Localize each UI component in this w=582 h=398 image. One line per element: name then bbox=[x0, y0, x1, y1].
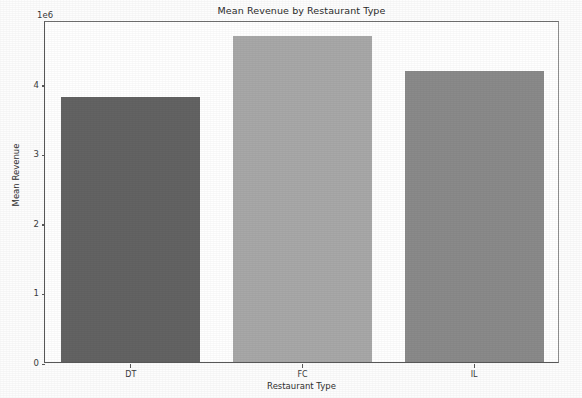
y-tick-label: 0 bbox=[34, 358, 39, 368]
y-tick-label: 1 bbox=[34, 288, 39, 298]
y-tick-mark bbox=[42, 224, 46, 225]
y-tick-label: 2 bbox=[34, 219, 39, 229]
y-tick-mark bbox=[42, 85, 46, 86]
x-tick-label: IL bbox=[434, 370, 514, 379]
plot-area: 01234 DTFCIL bbox=[44, 21, 559, 363]
y-tick-mark bbox=[42, 155, 46, 156]
x-tick-mark bbox=[474, 364, 475, 368]
bars-layer bbox=[45, 22, 558, 362]
chart-title: Mean Revenue by Restaurant Type bbox=[44, 5, 559, 16]
bar-fc bbox=[233, 36, 372, 362]
bar-il bbox=[405, 71, 544, 362]
y-tick-mark bbox=[42, 364, 46, 365]
x-axis-label: Restaurant Type bbox=[44, 381, 559, 391]
chart-figure: Mean Revenue by Restaurant Type 1e6 0123… bbox=[0, 0, 582, 398]
x-tick-mark bbox=[130, 364, 131, 368]
y-axis-offset-label: 1e6 bbox=[37, 10, 53, 20]
y-tick-label: 3 bbox=[34, 149, 39, 159]
bar-dt bbox=[61, 97, 200, 362]
x-tick-mark bbox=[302, 364, 303, 368]
y-axis-label: Mean Revenue bbox=[11, 125, 21, 225]
x-tick-label: FC bbox=[263, 370, 343, 379]
x-tick-label: DT bbox=[91, 370, 171, 379]
y-tick-label: 4 bbox=[34, 80, 39, 90]
y-tick-mark bbox=[42, 294, 46, 295]
